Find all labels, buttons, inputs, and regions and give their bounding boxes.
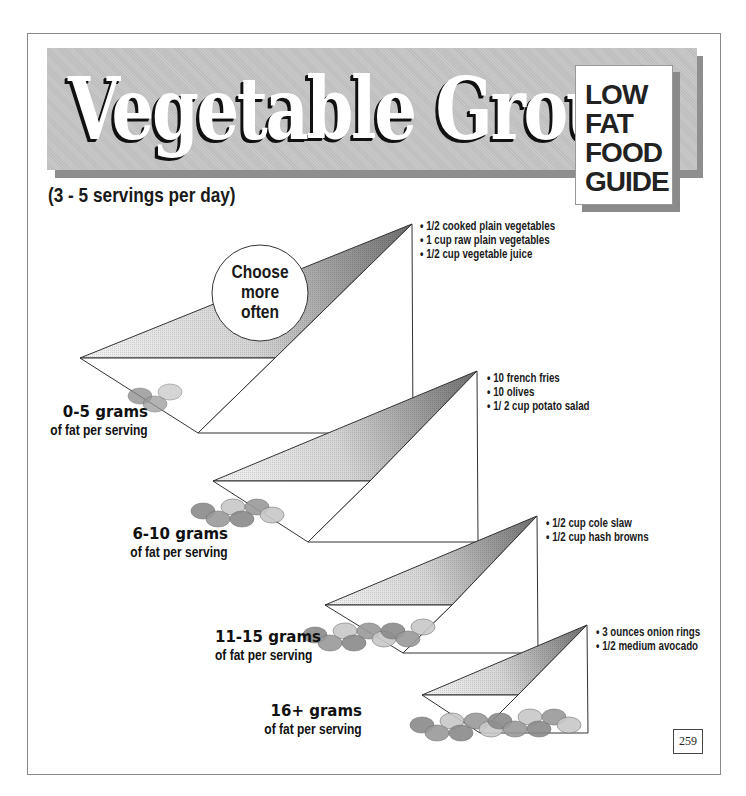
fat-label-tier-4: 16+ grams of fat per serving — [240, 703, 362, 737]
fat-unit: of fat per serving — [215, 646, 312, 663]
food-list-tier-4: 3 ounces onion rings 1/2 medium avocado — [596, 625, 700, 653]
fat-label-tier-1: 0-5 grams of fat per serving — [26, 404, 148, 438]
fat-drop — [158, 384, 182, 400]
callout-line: more — [221, 282, 300, 302]
food-list-tier-2: 10 french fries 10 olives 1/ 2 cup potat… — [487, 371, 590, 413]
scoop-illustration — [0, 0, 746, 796]
fat-range: 16+ grams — [240, 703, 362, 720]
fat-label-tier-3: 11-15 grams of fat per serving — [215, 629, 337, 663]
food-item: 1 cup raw plain vegetables — [420, 233, 555, 247]
food-item: 1/2 cup vegetable juice — [420, 247, 555, 261]
fat-drop — [557, 717, 581, 733]
fat-range: 6-10 grams — [106, 526, 228, 543]
choose-more-often-callout: Choose more often — [221, 262, 300, 322]
fat-unit: of fat per serving — [131, 543, 228, 560]
food-list-tier-1: 1/2 cooked plain vegetables 1 cup raw pl… — [420, 219, 555, 261]
fat-unit: of fat per serving — [51, 421, 148, 438]
food-item: 1/2 cooked plain vegetables — [420, 219, 555, 233]
fat-drop — [411, 619, 435, 635]
food-item: 10 olives — [487, 385, 590, 399]
food-list-tier-3: 1/2 cup cole slaw 1/2 cup hash browns — [546, 516, 649, 544]
food-item: 1/2 medium avocado — [596, 639, 700, 653]
callout-line: often — [221, 302, 300, 322]
food-item: 3 ounces onion rings — [596, 625, 700, 639]
callout-line: Choose — [221, 262, 300, 282]
food-item: 10 french fries — [487, 371, 590, 385]
food-item: 1/2 cup hash browns — [546, 530, 649, 544]
fat-label-tier-2: 6-10 grams of fat per serving — [106, 526, 228, 560]
food-item: 1/2 cup cole slaw — [546, 516, 649, 530]
fat-unit: of fat per serving — [265, 720, 362, 737]
fat-range: 0-5 grams — [26, 404, 148, 421]
fat-range: 11-15 grams — [215, 629, 337, 646]
food-item: 1/ 2 cup potato salad — [487, 399, 590, 413]
page-number: 259 — [673, 729, 703, 754]
fat-drop — [260, 507, 284, 523]
